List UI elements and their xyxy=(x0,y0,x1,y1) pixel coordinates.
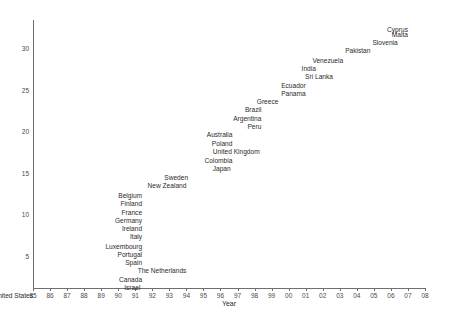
x-tick-mark xyxy=(169,288,170,291)
data-point-label: India xyxy=(302,64,316,71)
x-tick-label: 97 xyxy=(234,292,241,299)
x-tick-label: 90 xyxy=(115,292,122,299)
x-tick-label: 96 xyxy=(217,292,224,299)
data-point-label: France xyxy=(122,208,143,215)
x-tick-mark xyxy=(186,288,187,291)
x-tick-label: 93 xyxy=(166,292,173,299)
x-tick-mark xyxy=(374,288,375,291)
x-tick-label: 04 xyxy=(353,292,360,299)
y-tick-label: 20 xyxy=(0,128,29,135)
x-tick-label: 88 xyxy=(81,292,88,299)
x-axis-line xyxy=(33,288,425,289)
x-tick-label: 99 xyxy=(268,292,275,299)
x-tick-mark xyxy=(101,288,102,291)
x-tick-mark xyxy=(408,288,409,291)
x-tick-label: 86 xyxy=(46,292,53,299)
x-tick-mark xyxy=(306,288,307,291)
data-point-label: Colombia xyxy=(205,157,233,164)
x-tick-label: 94 xyxy=(183,292,190,299)
data-point-label: Slovenia xyxy=(372,39,397,46)
data-point-label: Ireland xyxy=(122,225,142,232)
x-tick-label: 89 xyxy=(98,292,105,299)
x-tick-mark xyxy=(50,288,51,291)
x-tick-label: 00 xyxy=(285,292,292,299)
x-tick-mark xyxy=(323,288,324,291)
data-point-label: Japan xyxy=(213,165,231,172)
x-tick-mark xyxy=(67,288,68,291)
x-tick-label: 91 xyxy=(132,292,139,299)
data-point-label: Australia xyxy=(207,131,233,138)
x-tick-label: 03 xyxy=(336,292,343,299)
data-point-label: Cyprus xyxy=(387,25,408,32)
data-point-label: United Kingdom xyxy=(213,147,260,154)
y-tick-label: 10 xyxy=(0,211,29,218)
x-tick-mark xyxy=(391,288,392,291)
data-point-label: Italy xyxy=(130,233,142,240)
x-tick-mark xyxy=(340,288,341,291)
data-point-label: Spain xyxy=(125,259,142,266)
y-tick-label: 25 xyxy=(0,86,29,93)
data-point-label: Portugal xyxy=(118,250,143,257)
scatter-chart: 51015202530 8586878889909192939495969798… xyxy=(0,0,458,318)
x-tick-label: 02 xyxy=(319,292,326,299)
x-tick-mark xyxy=(203,288,204,291)
x-tick-label: 87 xyxy=(63,292,70,299)
data-point-label: Luxembourg xyxy=(105,242,142,249)
data-point-label: Pakistan xyxy=(345,47,370,54)
data-point-label: Argentina xyxy=(233,114,261,121)
x-tick-mark xyxy=(425,288,426,291)
x-axis-title: Year xyxy=(0,300,458,307)
x-tick-label: 07 xyxy=(404,292,411,299)
data-point-label: Germany xyxy=(115,216,142,223)
y-axis-line xyxy=(33,20,34,289)
x-tick-label: 95 xyxy=(200,292,207,299)
data-point-label: Ecuador xyxy=(281,81,306,88)
x-tick-label: 01 xyxy=(302,292,309,299)
data-point-label: United States xyxy=(0,292,33,299)
data-point-label: Canada xyxy=(119,275,142,282)
x-tick-mark xyxy=(33,288,34,291)
x-tick-mark xyxy=(255,288,256,291)
y-tick-label: 30 xyxy=(0,45,29,52)
y-tick-label: 15 xyxy=(0,169,29,176)
data-point-label: The Netherlands xyxy=(138,267,187,274)
x-tick-mark xyxy=(118,288,119,291)
x-tick-mark xyxy=(84,288,85,291)
x-tick-mark xyxy=(220,288,221,291)
x-tick-mark xyxy=(272,288,273,291)
data-point-label: Sri Lanka xyxy=(305,73,333,80)
data-point-label: Finland xyxy=(120,200,142,207)
data-point-label: New Zealand xyxy=(148,181,187,188)
data-point-label: Peru xyxy=(247,123,261,130)
data-point-label: Sweden xyxy=(164,173,188,180)
x-tick-mark xyxy=(289,288,290,291)
x-tick-label: 08 xyxy=(421,292,428,299)
data-point-label: Brazil xyxy=(245,106,262,113)
x-tick-label: 06 xyxy=(387,292,394,299)
data-point-label: Venezuela xyxy=(312,56,343,63)
data-point-label: Belgium xyxy=(118,191,142,198)
x-tick-label: 98 xyxy=(251,292,258,299)
x-tick-mark xyxy=(357,288,358,291)
data-point-label: Panama xyxy=(281,89,306,96)
x-tick-label: 92 xyxy=(149,292,156,299)
x-tick-mark xyxy=(238,288,239,291)
y-tick-label: 5 xyxy=(0,252,29,259)
data-point-label: Israel xyxy=(124,284,140,291)
data-point-label: Greece xyxy=(257,98,279,105)
x-tick-label: 05 xyxy=(370,292,377,299)
data-point-label: Poland xyxy=(212,139,233,146)
x-tick-mark xyxy=(152,288,153,291)
